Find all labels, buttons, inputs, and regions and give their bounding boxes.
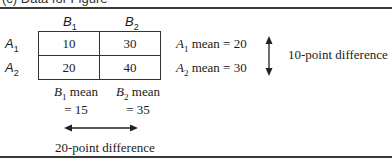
- row-difference-label: 10-point difference: [288, 47, 388, 63]
- top-rule: [0, 7, 392, 9]
- cell-a1-b2: 30: [100, 32, 161, 56]
- cell-a2-b1: 20: [39, 56, 100, 80]
- row-mean-a2: A2 mean = 30: [176, 60, 247, 78]
- figure-caption: (c) Data for Figure: [2, 0, 107, 6]
- table-row: 10 30: [39, 32, 161, 56]
- row-mean-a1: A1 mean = 20: [176, 36, 247, 54]
- table-row: 20 40: [39, 56, 161, 80]
- column-label-b2: B2: [125, 14, 139, 32]
- data-table: 10 30 20 40: [38, 31, 161, 80]
- bottom-rule: [0, 156, 392, 158]
- column-difference-label: 20-point difference: [55, 140, 155, 156]
- column-label-b1: B1: [63, 14, 77, 32]
- double-headed-vertical-arrow-icon: [264, 36, 274, 76]
- column-mean-b1: B1 mean = 15: [48, 84, 104, 118]
- row-label-a1: A1: [5, 36, 19, 54]
- double-headed-horizontal-arrow-icon: [64, 123, 138, 133]
- cell-a2-b2: 40: [100, 56, 161, 80]
- cell-a1-b1: 10: [39, 32, 100, 56]
- column-mean-b2: B2 mean = 35: [110, 84, 166, 118]
- row-label-a2: A2: [5, 60, 19, 78]
